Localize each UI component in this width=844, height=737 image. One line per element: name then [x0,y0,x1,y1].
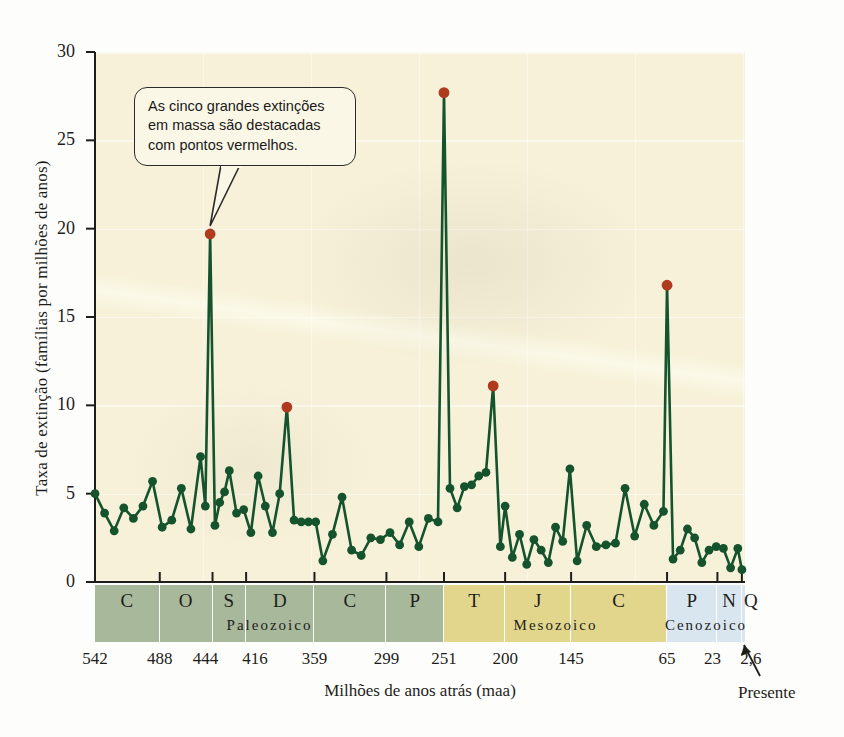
period-letter: P [386,590,443,612]
x-tick-label: 359 [302,649,328,669]
period-letter: C [571,590,666,612]
x-tick-label: 200 [492,649,518,669]
x-tick-label: 416 [242,649,268,669]
period-letter: C [95,590,159,612]
y-tick-label: 25 [39,129,75,150]
x-tick-label: 251 [431,649,457,669]
y-tick-label: 20 [39,218,75,239]
period-band-cretáceo: C [571,585,667,642]
callout-annotation: As cinco grandes extinções em massa são … [134,87,356,166]
x-tick-label: 2,6 [740,649,761,669]
period-band-quaternário: Q [742,585,745,642]
y-tick-label: 5 [39,483,75,504]
callout-line-1: As cinco grandes extinções [148,97,344,116]
period-band-paleogeno: P [667,585,717,642]
period-letter: Q [740,590,762,612]
period-letter: D [246,590,313,612]
period-letter: P [667,590,716,612]
x-axis-title: Milhões de anos atrás (maa) [95,681,745,701]
period-band-permiano: P [386,585,444,642]
period-band-siluriano: S [213,585,247,642]
x-tick-label: 299 [374,649,400,669]
period-band-triássico: T [444,585,505,642]
period-band-jurássico: J [505,585,571,642]
period-letter: O [160,590,212,612]
callout-line-3: com pontos vermelhos. [148,136,344,155]
extinction-rate-figure: Taxa de extinção (famílias por milhões d… [0,0,844,737]
y-tick-label: 15 [39,306,75,327]
period-band-carbonífero: C [314,585,386,642]
period-band-cambriano: C [95,585,160,642]
y-tick-label: 30 [39,41,75,62]
period-letter: S [213,590,246,612]
present-label: Presente [738,683,796,703]
x-tick-label: 444 [193,649,219,669]
period-letter: N [717,590,740,612]
y-tick-label: 0 [39,571,75,592]
geologic-period-bands: COSDCPTJCPNQ [95,585,745,642]
period-band-devoniano: D [246,585,314,642]
callout-line-2: em massa são destacadas [148,116,344,135]
period-letter: J [505,590,570,612]
period-band-neogeno: N [717,585,741,642]
x-tick-label: 488 [147,649,173,669]
x-tick-label: 65 [659,649,676,669]
x-tick-label: 542 [82,649,108,669]
x-tick-label: 145 [558,649,584,669]
period-letter: C [314,590,385,612]
y-tick-label: 10 [39,394,75,415]
x-tick-label: 23 [704,649,721,669]
period-band-ordoviciano: O [160,585,213,642]
period-letter: T [444,590,504,612]
